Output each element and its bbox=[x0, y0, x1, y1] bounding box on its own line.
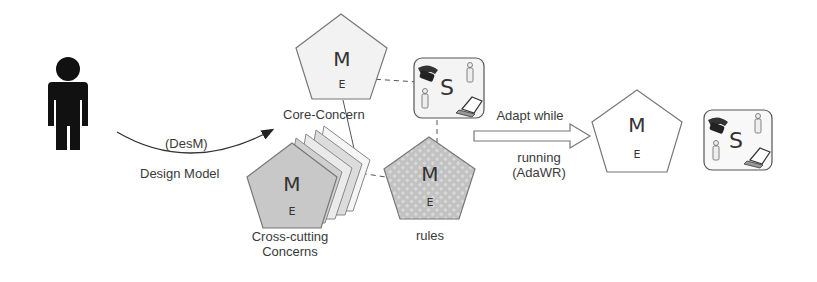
svg-text:S: S bbox=[440, 75, 454, 100]
person-icon bbox=[713, 141, 719, 161]
result-model-pentagon: M E bbox=[592, 90, 682, 172]
rules-label: rules bbox=[416, 228, 445, 243]
running-label: running bbox=[517, 150, 560, 165]
svg-text:E: E bbox=[634, 148, 641, 161]
adapt-while-label: Adapt while bbox=[496, 108, 563, 123]
svg-text:M: M bbox=[333, 47, 350, 71]
svg-text:S: S bbox=[729, 128, 743, 153]
person-icon bbox=[755, 114, 761, 134]
svg-text:M: M bbox=[628, 113, 645, 137]
svg-text:E: E bbox=[427, 196, 434, 209]
system-box: S bbox=[414, 58, 484, 118]
cross-cutting-label-2: Concerns bbox=[262, 244, 318, 259]
cross-cutting-label-1: Cross-cutting bbox=[252, 229, 329, 244]
svg-text:E: E bbox=[339, 78, 346, 91]
svg-text:M: M bbox=[283, 172, 300, 196]
core-concern-pentagon: M E bbox=[296, 14, 387, 99]
person-icon bbox=[48, 57, 88, 150]
core-concern-label: Core-Concern bbox=[283, 107, 365, 122]
rules-pentagon: M E bbox=[384, 137, 475, 219]
desm-label: (DesM) bbox=[165, 136, 208, 151]
person-icon bbox=[422, 89, 428, 109]
person-icon bbox=[467, 63, 473, 83]
adawr-label: (AdaWR) bbox=[512, 165, 565, 180]
svg-text:E: E bbox=[289, 205, 296, 218]
design-model-label: Design Model bbox=[140, 166, 220, 181]
diagram-canvas: (DesM) Design Model M E Core-Concern M E… bbox=[0, 0, 817, 282]
result-system-box: S bbox=[704, 110, 772, 170]
svg-text:M: M bbox=[421, 162, 438, 186]
adapt-arrow bbox=[474, 124, 590, 148]
